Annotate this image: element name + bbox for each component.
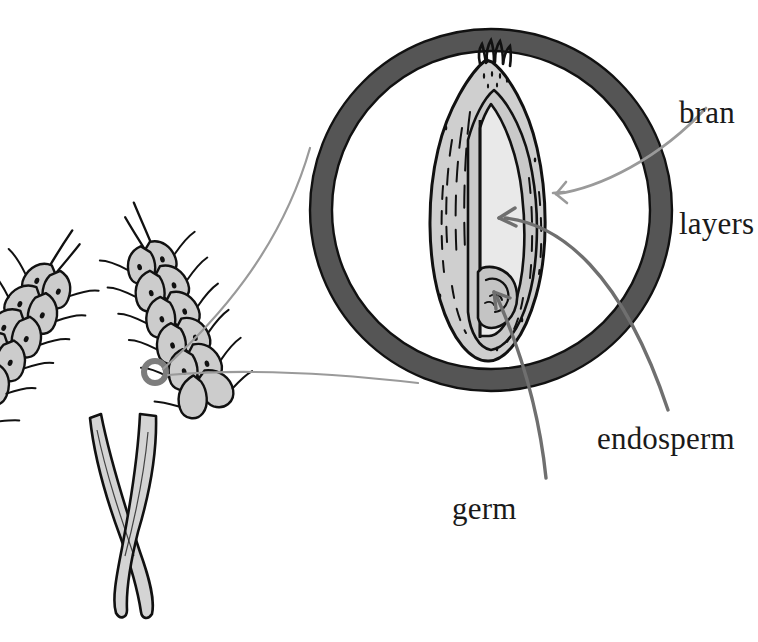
label-germ: germ bbox=[452, 490, 517, 527]
illustration-canvas: bran layers endosperm germ bbox=[0, 0, 758, 642]
wheat-kernel-diagram bbox=[0, 0, 758, 642]
label-endosperm: endosperm bbox=[597, 420, 735, 457]
label-bran-layers-line1: bran bbox=[679, 94, 754, 131]
label-bran-layers: bran layers bbox=[679, 20, 754, 316]
label-bran-layers-line2: layers bbox=[679, 205, 754, 242]
